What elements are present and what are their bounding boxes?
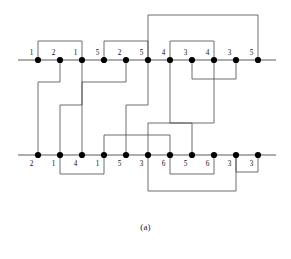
node-label-top-strand-8: 3 bbox=[184, 49, 188, 57]
node-bottom-strand-7[interactable] bbox=[167, 152, 173, 158]
edge-cross-top2-bottom1 bbox=[38, 60, 60, 155]
node-label-bottom-strand-4: 1 bbox=[96, 160, 100, 168]
node-label-top-strand-7: 4 bbox=[162, 49, 166, 57]
node-top-strand-11[interactable] bbox=[255, 57, 261, 63]
node-bottom-strand-2[interactable] bbox=[57, 152, 63, 158]
node-top-strand-6[interactable] bbox=[145, 57, 151, 63]
node-bottom-strand-4[interactable] bbox=[101, 152, 107, 158]
node-top-strand-7[interactable] bbox=[167, 57, 173, 63]
node-bottom-strand-1[interactable] bbox=[35, 152, 41, 158]
node-bottom-strand-10[interactable] bbox=[233, 152, 239, 158]
node-label-top-strand-3: 1 bbox=[74, 49, 78, 57]
node-label-top-strand-4: 5 bbox=[96, 49, 100, 57]
node-top-strand-4[interactable] bbox=[101, 57, 107, 63]
node-label-bottom-strand-9: 6 bbox=[206, 160, 210, 168]
node-top-strand-2[interactable] bbox=[57, 57, 63, 63]
node-top-strand-5[interactable] bbox=[123, 57, 129, 63]
edge-bottom-arc-10-11 bbox=[236, 155, 258, 172]
node-bottom-strand-6[interactable] bbox=[145, 152, 151, 158]
node-top-strand-1[interactable] bbox=[35, 57, 41, 63]
node-bottom-strand-11[interactable] bbox=[255, 152, 261, 158]
node-label-bottom-strand-10: 3 bbox=[228, 160, 232, 168]
node-top-strand-9[interactable] bbox=[211, 57, 217, 63]
node-labels-layer: 1215254343521415365633 bbox=[30, 49, 254, 168]
node-label-top-strand-9: 4 bbox=[206, 49, 210, 57]
node-top-strand-10[interactable] bbox=[233, 57, 239, 63]
node-label-bottom-strand-6: 3 bbox=[140, 160, 144, 168]
strand-axes-layer bbox=[18, 60, 276, 155]
node-bottom-strand-5[interactable] bbox=[123, 152, 129, 158]
node-label-top-strand-10: 3 bbox=[228, 49, 232, 57]
node-label-bottom-strand-5: 5 bbox=[118, 160, 122, 168]
edges-layer bbox=[38, 15, 258, 191]
node-label-bottom-strand-8: 5 bbox=[184, 160, 188, 168]
knot-diagram: 1215254343521415365633 bbox=[0, 0, 291, 259]
node-label-top-strand-5: 2 bbox=[118, 49, 122, 57]
edge-cross-top7-bottom8 bbox=[170, 60, 192, 155]
edge-cross-bottom4-bottom7 bbox=[104, 135, 170, 155]
figure-caption: (a) bbox=[0, 222, 291, 232]
node-label-top-strand-11: 5 bbox=[250, 49, 254, 57]
node-label-top-strand-6: 5 bbox=[140, 49, 144, 57]
node-label-top-strand-1: 1 bbox=[30, 49, 34, 57]
node-bottom-strand-9[interactable] bbox=[211, 152, 217, 158]
node-label-bottom-strand-2: 1 bbox=[52, 160, 56, 168]
node-bottom-strand-8[interactable] bbox=[189, 152, 195, 158]
edge-cross-top6-bottom5 bbox=[126, 60, 148, 155]
node-label-bottom-strand-1: 2 bbox=[30, 160, 34, 168]
node-top-strand-3[interactable] bbox=[79, 57, 85, 63]
node-label-bottom-strand-7: 6 bbox=[162, 160, 166, 168]
node-bottom-strand-3[interactable] bbox=[79, 152, 85, 158]
figure-container: 1215254343521415365633 (a) bbox=[0, 0, 291, 259]
node-label-top-strand-2: 2 bbox=[52, 49, 56, 57]
node-top-strand-8[interactable] bbox=[189, 57, 195, 63]
edge-cross-top3-bottom2 bbox=[60, 60, 82, 155]
edge-cross-top9-bottom6 bbox=[148, 60, 214, 155]
node-label-bottom-strand-3: 4 bbox=[74, 160, 78, 168]
node-label-bottom-strand-11: 3 bbox=[250, 160, 254, 168]
